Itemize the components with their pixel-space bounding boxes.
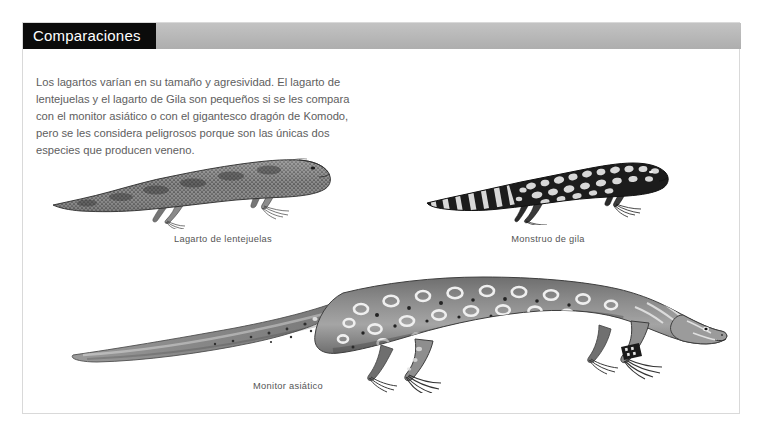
intro-paragraph: Los lagartos varían en su tamaño y agres… bbox=[36, 74, 366, 159]
header-band: Comparaciones bbox=[23, 23, 741, 49]
asian-monitor-illustration bbox=[43, 263, 733, 393]
gila-monster-illustration bbox=[423, 153, 673, 225]
beaded-lizard-illustration bbox=[51, 149, 336, 229]
beaded-lizard-caption: Lagarto de lentejuelas bbox=[143, 234, 303, 244]
textbook-page: Comparaciones Los lagartos varían en su … bbox=[22, 22, 740, 414]
gila-monster-caption: Monstruo de gila bbox=[468, 234, 628, 244]
asian-monitor-caption: Monitor asiático bbox=[208, 381, 368, 391]
page-title: Comparaciones bbox=[33, 27, 141, 44]
